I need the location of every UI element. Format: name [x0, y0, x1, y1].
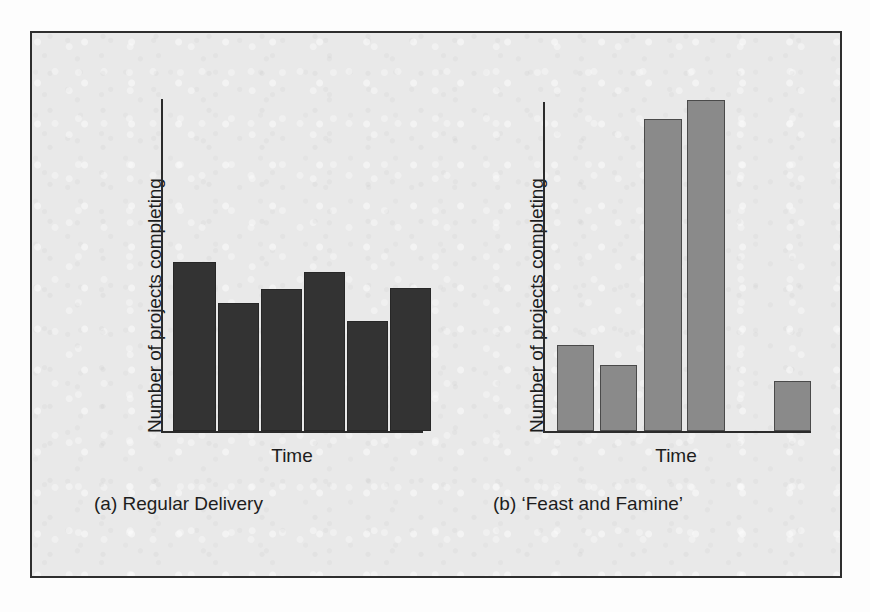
figure-frame: Number of projects completing Time (a) R…: [30, 31, 842, 578]
bar-series-a: [173, 193, 421, 431]
bar-b-4: [687, 100, 725, 431]
x-axis-line-b: [543, 431, 811, 433]
x-axis-label-a: Time: [212, 445, 372, 467]
bar-a-6: [390, 288, 431, 431]
bar-a-5: [347, 321, 388, 431]
chart-panel-b: Number of projects completing Time (b) ‘…: [438, 33, 842, 578]
y-axis-line-b: [543, 102, 545, 433]
panel-caption-b: (b) ‘Feast and Famine’: [493, 493, 683, 515]
chart-panel-a: Number of projects completing Time (a) R…: [32, 33, 438, 578]
bar-b-1: [557, 345, 594, 431]
figure-root: Number of projects completing Time (a) R…: [0, 0, 870, 612]
panel-caption-a: (a) Regular Delivery: [94, 493, 263, 515]
bar-a-1: [173, 262, 216, 431]
x-axis-label-b: Time: [596, 445, 756, 467]
x-axis-line-a: [161, 431, 423, 433]
bar-b-6: [774, 381, 811, 431]
bar-a-2: [218, 303, 259, 431]
y-axis-line-a: [161, 99, 163, 433]
bar-series-b: [555, 93, 811, 431]
bar-a-3: [261, 289, 302, 431]
bar-b-2: [600, 365, 637, 431]
bar-b-3: [644, 119, 682, 431]
bar-a-4: [304, 272, 345, 431]
